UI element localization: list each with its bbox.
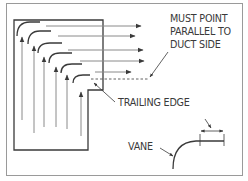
outgoing-airflow-arrows: [46, 26, 144, 72]
must-point-label-line2: PARALLEL TO: [170, 26, 232, 37]
vane-3: [38, 43, 62, 53]
vane-1: [17, 22, 40, 36]
must-point-label-line1: MUST POINT: [170, 13, 228, 24]
duct-outline: [14, 20, 103, 150]
vane-5: [61, 64, 82, 73]
vane-6: [73, 75, 90, 83]
trailing-edge-leader: [94, 83, 115, 102]
vane-label: VANE: [128, 141, 153, 152]
trailing-edge-dimension: [200, 119, 224, 146]
vane-4: [49, 53, 72, 63]
must-point-leader: [150, 52, 168, 77]
must-point-label-line3: DUCT SIDE: [170, 39, 221, 50]
vane-leader: [160, 148, 173, 156]
vane-2: [28, 31, 51, 44]
vane-detail: [173, 141, 224, 169]
duct-vane-diagram: MUST POINT PARALLEL TO DUCT SIDE TRAILIN…: [0, 0, 248, 181]
incoming-airflow-arrows: [22, 37, 81, 136]
trailing-edge-label: TRAILING EDGE: [117, 97, 190, 108]
turning-vanes: [17, 22, 90, 83]
